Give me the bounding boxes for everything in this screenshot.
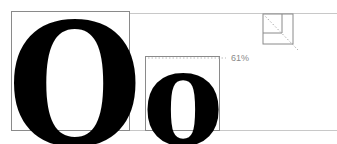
ratio-label: 61% [231, 53, 249, 63]
proportion-square-icon [262, 13, 302, 53]
